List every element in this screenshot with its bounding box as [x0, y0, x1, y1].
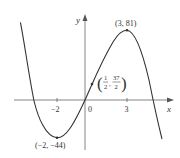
- tick-label-0: 0: [88, 105, 92, 114]
- y-axis-label: y: [75, 15, 80, 25]
- inflection-y-numerator: 37: [113, 74, 120, 81]
- local-max-point: [126, 29, 129, 32]
- tick-label-neg2: −2: [51, 105, 60, 114]
- inflection-point: [91, 83, 94, 86]
- y-axis-arrow-icon: [83, 14, 88, 21]
- local-min-point: [56, 137, 59, 140]
- inflection-x-denominator: 2: [104, 83, 107, 90]
- function-curve: [20, 22, 162, 139]
- local-min-label: (−2, −44): [35, 141, 66, 150]
- inflection-x-numerator: 1: [104, 74, 107, 81]
- inflection-close-paren: ): [121, 74, 127, 93]
- tick-label-3: 3: [125, 105, 129, 114]
- inflection-y-denominator: 2: [115, 83, 118, 90]
- x-axis-arrow-icon: [167, 98, 174, 103]
- cubic-function-graph: x y −2 0 3 (3, 81) (−2, −44) ( 1 2 , 37 …: [0, 0, 180, 158]
- inflection-open-paren: (: [97, 74, 103, 93]
- local-max-label: (3, 81): [115, 19, 137, 28]
- x-axis-label: x: [166, 104, 171, 114]
- inflection-comma: ,: [109, 80, 111, 88]
- inflection-label: ( 1 2 , 37 2 ): [97, 74, 127, 93]
